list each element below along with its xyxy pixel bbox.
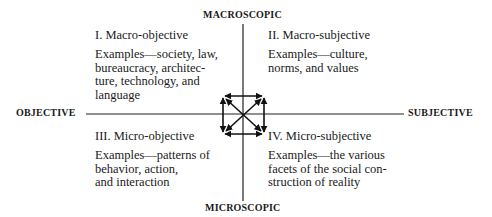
example-line: and interaction: [95, 176, 210, 190]
example-line: Examples—society, law,: [95, 48, 218, 62]
example-line: bureaucracy, architec-: [95, 62, 218, 76]
axis-label-subjective: SUBJECTIVE: [408, 107, 473, 118]
quadrant-examples: Examples—culture, norms, and values: [268, 48, 370, 75]
quadrant-title: III. Micro-objective: [95, 129, 210, 143]
quadrant-title: II. Macro-subjective: [268, 28, 370, 42]
quadrant-micro-objective: III. Micro-objective Examples—patterns o…: [95, 129, 210, 190]
example-line: ture, technology, and: [95, 75, 218, 89]
quadrant-title: IV. Micro-subjective: [268, 129, 387, 143]
example-line: Examples—the various: [268, 149, 387, 163]
quadrant-title: I. Macro-objective: [95, 28, 218, 42]
axis-label-macroscopic: MACROSCOPIC: [203, 9, 282, 20]
example-line: norms, and values: [268, 62, 370, 76]
axis-label-objective: OBJECTIVE: [16, 107, 76, 118]
quadrant-examples: Examples—patterns of behavior, action, a…: [95, 149, 210, 190]
quadrant-micro-subjective: IV. Micro-subjective Examples—the variou…: [268, 129, 387, 190]
quadrant-examples: Examples—society, law, bureaucracy, arch…: [95, 48, 218, 102]
example-line: language: [95, 89, 218, 103]
quadrant-macro-subjective: II. Macro-subjective Examples—culture, n…: [268, 28, 370, 75]
example-line: Examples—culture,: [268, 48, 370, 62]
example-line: behavior, action,: [95, 163, 210, 177]
example-line: facets of the social con-: [268, 163, 387, 177]
example-line: Examples—patterns of: [95, 149, 210, 163]
example-line: struction of reality: [268, 176, 387, 190]
quadrant-examples: Examples—the various facets of the socia…: [268, 149, 387, 190]
axis-label-microscopic: MICROSCOPIC: [205, 202, 281, 213]
quadrant-macro-objective: I. Macro-objective Examples—society, law…: [95, 28, 218, 102]
